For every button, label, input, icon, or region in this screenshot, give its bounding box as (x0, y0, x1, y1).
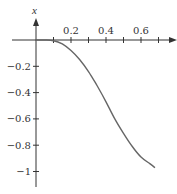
data-curve (36, 40, 155, 168)
x-tick-label: 0.2 (63, 25, 79, 36)
y-tick-label: −0.6 (7, 113, 31, 124)
y-axis-label: x (31, 4, 37, 16)
x-tick-label: 0.4 (98, 25, 114, 36)
y-axis-arrow-icon (33, 18, 39, 26)
x-axis-arrow-icon (169, 37, 177, 43)
y-tick-label: −0.2 (7, 61, 31, 72)
x-tick-label: 0.6 (133, 25, 149, 36)
y-tick-label: −0.8 (7, 140, 31, 151)
tick-labels: 0.20.40.6−0.2−0.4−0.6−0.8−1 (7, 25, 149, 177)
y-tick-label: −0.4 (7, 87, 31, 98)
axes (12, 18, 177, 187)
ticks (33, 37, 159, 172)
y-tick-label: −1 (16, 166, 31, 177)
chart: 0.20.40.6−0.2−0.4−0.6−0.8−1 x (0, 0, 177, 194)
